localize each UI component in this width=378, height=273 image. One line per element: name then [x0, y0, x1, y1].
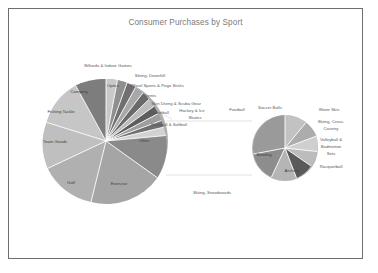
label-skiing-downhill: Skiing, Downhill [135, 73, 165, 78]
label-hockey-ice-skates-line1: Hockey & Ice [179, 108, 205, 113]
label-archery: Archery [285, 168, 301, 173]
label-fishing-tackle: Fishing Tackle [47, 109, 75, 114]
label-volleyball-line1: Volleyball & [320, 137, 342, 142]
label-racquetball: Racquetball [320, 164, 343, 169]
label-baseball-softball: Baseball & Softball [151, 122, 187, 127]
chart-frame: Consumer Purchases by Sport [8, 8, 363, 259]
slice-football [253, 115, 285, 154]
label-bowling: Bowling [256, 152, 272, 157]
label-camping: Camping [70, 89, 88, 94]
label-golf: Golf [67, 180, 76, 185]
label-wheel-sports: Wheel Sports & Pogo Sticks [130, 83, 184, 88]
label-exercise: Exercise [111, 181, 128, 186]
label-skin-diving: Skin Diving & Scuba Gear [151, 101, 201, 106]
label-water-skis: Water Skis [319, 107, 340, 112]
label-soccer-balls: Soccer Balls [258, 105, 282, 110]
label-cross-country-line2: Country [323, 126, 339, 131]
label-hockey-ice-skates-line2: Skates [188, 115, 201, 120]
label-tennis: Tennis [144, 93, 156, 98]
label-volleyball-line3: Sets [327, 151, 336, 156]
label-football: Football [229, 107, 244, 112]
label-basketball: Basketball [149, 110, 169, 115]
label-billiards: Billiards & Indoor Games [84, 63, 132, 68]
label-team-goods: Team Goods [43, 139, 67, 144]
label-other: Other [139, 138, 150, 143]
label-cross-country-line1: Skiing, Cross- [318, 119, 345, 124]
label-skiing-snowboards: Skiing, Snowboards [193, 190, 231, 195]
label-volleyball-line2: Badminton [321, 144, 342, 149]
pie-of-pie-chart: Optics Camping Fishing Tackle Team Goods… [9, 9, 364, 260]
label-optics: Optics [107, 83, 119, 88]
